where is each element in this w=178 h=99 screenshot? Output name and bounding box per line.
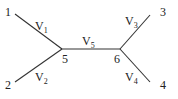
edge-label-v2: V2: [35, 70, 48, 86]
node-label-6: 6: [114, 52, 120, 66]
node-label-2: 2: [5, 78, 11, 92]
edge-label-v4: V4: [125, 70, 138, 86]
node-label-3: 3: [160, 5, 166, 19]
node-label-4: 4: [160, 78, 166, 92]
tree-diagram: 1 2 3 4 5 6 V1 V2 V5 V3 V4: [0, 0, 178, 99]
node-label-5: 5: [62, 52, 68, 66]
tree-svg: 1 2 3 4 5 6 V1 V2 V5 V3 V4: [0, 0, 178, 99]
edge-label-v1: V1: [35, 19, 48, 35]
edge-label-v3: V3: [125, 14, 138, 30]
node-label-1: 1: [5, 5, 11, 19]
edge-label-v5: V5: [82, 34, 95, 50]
